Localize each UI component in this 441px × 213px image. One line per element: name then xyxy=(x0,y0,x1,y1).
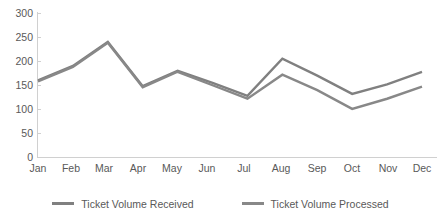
legend-label: Ticket Volume Processed xyxy=(271,199,389,210)
x-tick-label: Nov xyxy=(379,162,398,174)
x-axis-tick-labels: Jan Feb Mar Apr May Jun Jul Aug Sep Oct … xyxy=(30,162,432,174)
x-tick-label: Aug xyxy=(272,162,291,174)
x-tick-label: Jul xyxy=(237,162,250,174)
legend-item-processed[interactable]: Ticket Volume Processed xyxy=(242,199,389,210)
plot-area: 300 250 200 150 100 50 0 Jan xyxy=(0,0,441,213)
x-tick-label: Oct xyxy=(344,162,360,174)
x-tick-label: Dec xyxy=(413,162,432,174)
y-tick-label: 50 xyxy=(21,127,33,139)
legend-item-received[interactable]: Ticket Volume Received xyxy=(52,199,193,210)
chart-legend: Ticket Volume Received Ticket Volume Pro… xyxy=(0,199,441,210)
x-tick-label: Mar xyxy=(95,162,114,174)
x-tick-label: Jan xyxy=(30,162,47,174)
series-line-processed xyxy=(38,43,422,109)
x-tick-label: Apr xyxy=(130,162,147,174)
y-tick-label: 300 xyxy=(15,7,33,19)
legend-label: Ticket Volume Received xyxy=(81,199,193,210)
y-tick-label: 250 xyxy=(15,31,33,43)
x-tick-label: Jun xyxy=(199,162,216,174)
line-chart: 300 250 200 150 100 50 0 Jan xyxy=(0,0,441,213)
y-axis-tick-labels: 300 250 200 150 100 50 0 xyxy=(15,7,33,163)
y-tick-label: 200 xyxy=(15,55,33,67)
legend-swatch-icon xyxy=(242,202,264,205)
x-tick-label: Feb xyxy=(62,162,80,174)
x-tick-label: May xyxy=(162,162,183,174)
legend-swatch-icon xyxy=(52,202,74,205)
x-tick-label: Sep xyxy=(308,162,327,174)
y-tick-label: 100 xyxy=(15,103,33,115)
y-tick-label: 150 xyxy=(15,79,33,91)
chart-svg: 300 250 200 150 100 50 0 Jan xyxy=(0,0,441,213)
